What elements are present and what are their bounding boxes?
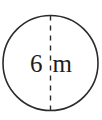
circle-diagram-svg [0,0,102,120]
figure-canvas: 6m [0,0,102,120]
